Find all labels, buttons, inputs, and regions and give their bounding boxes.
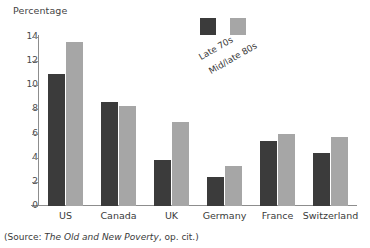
bar xyxy=(66,42,83,206)
source-prefix: (Source: xyxy=(4,232,44,242)
bar xyxy=(172,122,189,207)
bar xyxy=(278,134,295,206)
bar xyxy=(313,153,330,206)
bar xyxy=(101,102,118,206)
bar xyxy=(260,141,277,206)
bar xyxy=(331,137,348,206)
bar xyxy=(119,106,136,206)
source-title: The Old and New Poverty xyxy=(44,232,158,242)
legend-swatch-late-70s xyxy=(200,18,216,35)
bar xyxy=(225,166,242,206)
chart-legend: Late 70s Mid/late 80s xyxy=(196,14,316,74)
bar xyxy=(154,160,171,206)
legend-swatch-mid-late-80s xyxy=(230,18,246,35)
source-note: (Source: The Old and New Poverty, op. ci… xyxy=(4,232,199,242)
source-suffix: , op. cit.) xyxy=(159,232,199,242)
x-axis-label: Switzerland xyxy=(296,210,365,221)
bar xyxy=(48,74,65,206)
bar-chart-figure: Percentage 02468101214 USCanadaUKGermany… xyxy=(0,0,370,248)
bar xyxy=(207,177,224,206)
